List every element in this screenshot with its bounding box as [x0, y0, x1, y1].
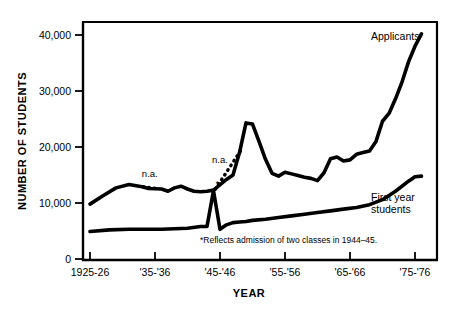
x-tick-label-35-36: '35-'36: [140, 266, 171, 278]
y-tick-label-0: 0: [65, 253, 71, 265]
x-axis-title: YEAR: [233, 287, 266, 299]
chart-annotations: n.a. n.a. *: [142, 154, 228, 189]
spike-asterisk-marker: *: [216, 178, 220, 189]
series-label-applicants: Applicants: [371, 30, 419, 42]
x-axis-tick-labels: 1925-26 '35-'36 '45-'46 '55-'56 '65-'66 …: [71, 266, 431, 278]
y-axis-title: NUMBER OF STUDENTS: [16, 72, 28, 210]
footnote-text: *Reflects admission of two classes in 19…: [200, 235, 377, 245]
na-annotation-2: n.a.: [212, 154, 228, 165]
chart-container: 40,000 30,000 20,000 10,000 0 NUMBER OF …: [0, 0, 459, 312]
x-tick-label-75-76: '75-'76: [400, 266, 431, 278]
x-tick-label-65-66: '65-'66: [335, 266, 366, 278]
series-label-first-year-students-line1: First year: [371, 191, 415, 203]
y-axis-tick-labels: 40,000 30,000 20,000 10,000 0: [39, 29, 71, 265]
y-tick-label-10000: 10,000: [39, 197, 71, 209]
x-tick-label-45-46: '45-'46: [205, 266, 236, 278]
na-annotation-1: n.a.: [142, 168, 158, 179]
series-line-applicants: [90, 34, 422, 204]
y-tick-label-30000: 30,000: [39, 85, 71, 97]
y-tick-label-20000: 20,000: [39, 141, 71, 153]
y-tick-label-40000: 40,000: [39, 29, 71, 41]
series-label-first-year-students-line2: students: [371, 203, 411, 215]
x-tick-label-55-56: '55-'56: [270, 266, 301, 278]
x-tick-label-1925-26: 1925-26: [71, 266, 110, 278]
students-line-chart: 40,000 30,000 20,000 10,000 0 NUMBER OF …: [0, 0, 459, 312]
